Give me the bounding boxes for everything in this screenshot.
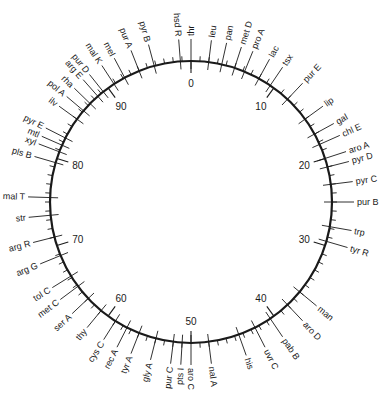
gene-label: thr <box>186 25 196 36</box>
minute-label: 50 <box>185 316 197 327</box>
minor-tick <box>63 132 67 134</box>
gene-label: hsd R <box>172 13 184 38</box>
minor-tick <box>300 109 304 112</box>
gene-marker: lac <box>255 44 281 86</box>
gene-tick <box>282 83 303 105</box>
gene-tick <box>220 43 227 72</box>
gene-tick <box>319 239 348 247</box>
minor-tick <box>173 57 174 62</box>
gene-tick <box>28 197 58 198</box>
gene-tick <box>151 331 158 360</box>
minor-tick <box>85 102 89 105</box>
minor-tick <box>267 321 270 325</box>
gene-tick <box>179 40 181 70</box>
gene-label: tyr R <box>349 243 371 258</box>
gene-tick <box>33 235 62 242</box>
minor-tick <box>305 285 309 288</box>
gene-label: gal <box>334 112 349 127</box>
gene-marker: thr <box>186 25 196 69</box>
gene-marker: lip <box>299 95 336 124</box>
gene-label: aro C <box>186 368 196 391</box>
gene-label: ser A <box>52 312 74 333</box>
gene-label: thy <box>74 326 90 342</box>
gene-label: pab B <box>280 336 301 361</box>
major-tick <box>108 306 115 316</box>
gene-tick <box>208 40 212 70</box>
gene-label: pts I <box>175 367 186 385</box>
gene-tick <box>282 299 303 321</box>
minor-tick <box>91 96 94 100</box>
gene-label: pan <box>222 24 235 41</box>
gene-label: mel <box>102 40 118 58</box>
gene-label: man <box>316 304 336 323</box>
gene-label: arg G <box>15 260 40 278</box>
minor-tick <box>98 90 101 94</box>
minor-tick <box>46 184 51 185</box>
gene-label: his <box>242 357 255 372</box>
gene-label: rec A <box>102 348 120 371</box>
gene-tick <box>232 47 241 76</box>
major-tick <box>57 158 68 162</box>
minute-label: 30 <box>299 234 311 245</box>
minute-label: 90 <box>116 101 128 112</box>
gene-label: tsx <box>280 52 295 68</box>
minute-labels: 0102030405060708090 <box>72 78 310 327</box>
minor-tick <box>46 220 51 221</box>
minor-tick <box>281 311 284 315</box>
gene-tick <box>35 157 64 165</box>
minor-tick <box>310 278 314 281</box>
gene-label: pls B <box>11 145 33 160</box>
minor-tick <box>294 102 298 105</box>
minor-tick <box>315 270 319 272</box>
minor-tick <box>259 326 261 330</box>
gene-label: pur C <box>162 366 175 390</box>
gene-marker: ilv <box>47 95 84 123</box>
minute-label: 10 <box>255 101 267 112</box>
gene-label: pur E <box>301 62 323 85</box>
gene-label: nal A <box>207 366 219 387</box>
minor-tick <box>68 124 72 127</box>
gene-tick <box>320 162 349 169</box>
genetic-map: 0102030405060708090 thrleupanmet Dpro Al… <box>0 0 379 398</box>
gene-tick <box>208 334 212 364</box>
gene-label: pyr B <box>137 20 152 43</box>
major-tick <box>57 242 68 246</box>
gene-label: gly A <box>140 362 155 383</box>
gene-tick <box>114 58 128 84</box>
minute-label: 20 <box>299 160 311 171</box>
minute-label: 0 <box>188 78 194 89</box>
minor-tick <box>294 299 298 302</box>
gene-label: str <box>15 213 26 224</box>
minute-ticks <box>45 56 337 347</box>
gene-label: chl E <box>340 121 362 138</box>
minute-label: 60 <box>116 293 128 304</box>
gene-tick <box>149 45 157 74</box>
minor-tick <box>121 326 123 330</box>
gene-label: lip <box>322 95 335 108</box>
gene-marker: tsx <box>266 52 295 92</box>
gene-label: arg R <box>8 238 32 253</box>
gene-label: aro D <box>301 320 324 343</box>
major-tick <box>314 242 325 246</box>
gene-label: cys C <box>86 339 107 364</box>
minor-tick <box>281 90 284 94</box>
gene-tick <box>72 293 94 314</box>
major-tick <box>108 88 115 98</box>
gene-label: mal T <box>3 191 26 202</box>
chromosome-circle <box>50 61 332 343</box>
gene-label: ilv <box>47 95 60 108</box>
gene-label: uvr C <box>262 348 281 372</box>
gene-tick <box>318 152 347 161</box>
gene-marker: pur E <box>282 62 323 105</box>
gene-label: trp <box>354 226 366 238</box>
gene-tick <box>181 335 183 365</box>
minute-label: 80 <box>72 160 84 171</box>
gene-tick <box>171 334 175 364</box>
gene-tick <box>323 182 353 186</box>
gene-label: lac <box>267 44 282 59</box>
minute-label: 70 <box>72 234 84 245</box>
minor-tick <box>310 124 314 127</box>
gene-label: tyr A <box>119 354 135 374</box>
gene-label: pur A <box>118 26 135 49</box>
gene-label: pyr C <box>355 173 378 186</box>
